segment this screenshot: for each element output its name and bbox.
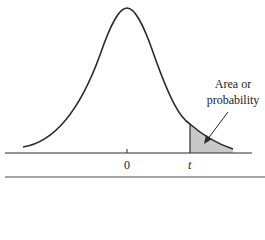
shaded-tail-area <box>190 124 233 153</box>
area-annotation-line2: probability <box>202 92 264 108</box>
area-annotation: Area or probability <box>202 76 264 108</box>
annotation-arrow <box>207 112 228 140</box>
area-annotation-line1: Area or <box>202 76 264 92</box>
zero-label: 0 <box>124 158 130 172</box>
t-label: t <box>188 158 191 172</box>
